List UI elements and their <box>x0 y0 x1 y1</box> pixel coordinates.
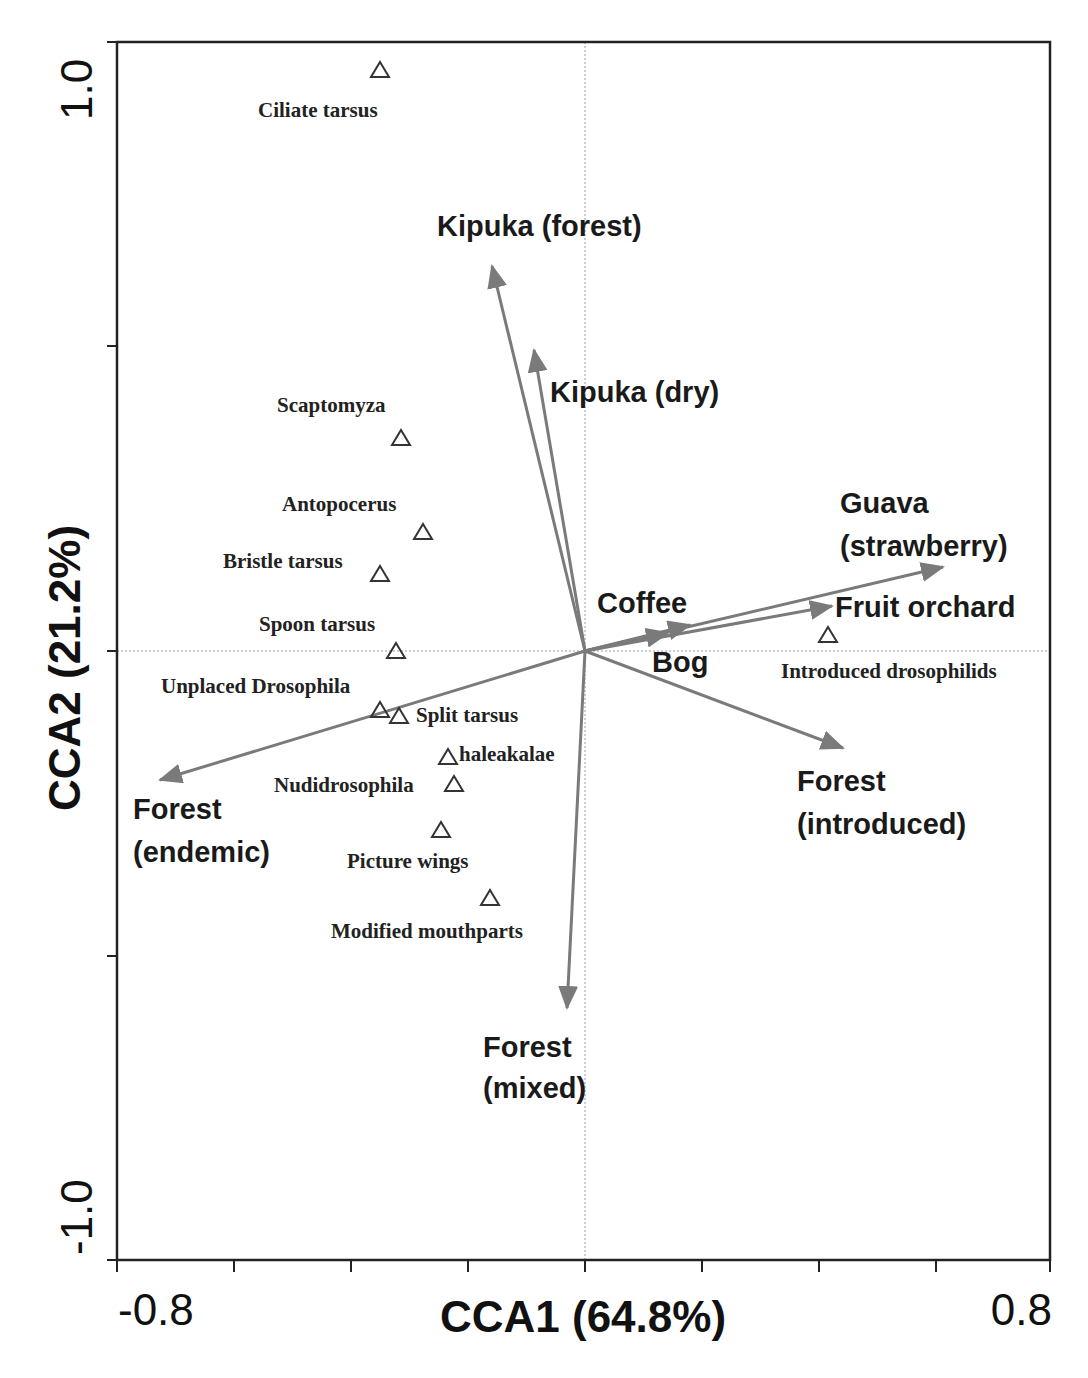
label-kipuka-dry: Kipuka (dry) <box>550 376 719 408</box>
species-label-haleakalae: haleakalae <box>459 742 555 766</box>
species-label-picture-wings: Picture wings <box>347 849 469 873</box>
species-label-split-tarsus: Split tarsus <box>416 703 518 727</box>
label-forest-endemic-line2: (endemic) <box>133 836 270 868</box>
triangle-marker-ciliate-tarsus <box>371 62 389 77</box>
label-guava-line2: (strawberry) <box>840 530 1008 562</box>
species-label-introduced-drosophilids: Introduced drosophilids <box>781 659 997 683</box>
species-label-scaptomyza: Scaptomyza <box>277 393 386 417</box>
y-tick-label-min: -1.0 <box>52 1179 101 1255</box>
species-label-modified-mouthparts: Modified mouthparts <box>331 919 523 943</box>
vector-kipuka-forest <box>492 266 585 651</box>
triangle-marker-bristle-tarsus <box>371 566 389 581</box>
label-fruit-orchard: Fruit orchard <box>835 591 1015 623</box>
species-label-antopocerus: Antopocerus <box>282 492 396 516</box>
label-forest-endemic-line1: Forest <box>133 793 222 825</box>
species-label-spoon-tarsus: Spoon tarsus <box>259 612 375 636</box>
label-coffee: Coffee <box>597 587 687 619</box>
label-forest-mixed-line2: (mixed) <box>483 1072 586 1104</box>
label-forest-introduced-line2: (introduced) <box>797 808 966 840</box>
species-label-ciliate-tarsus: Ciliate tarsus <box>258 98 378 122</box>
x-axis-title: CCA1 (64.8%) <box>440 1292 726 1341</box>
triangle-marker-introduced-drosophilids <box>819 627 837 642</box>
species-label-nudidrosophila: Nudidrosophila <box>274 773 414 797</box>
triangle-marker-scaptomyza <box>392 430 410 445</box>
triangle-marker-nudidrosophila <box>445 776 463 791</box>
label-bog: Bog <box>652 646 708 678</box>
triangle-marker-picture-wings <box>432 822 450 837</box>
label-forest-mixed-line1: Forest <box>483 1031 572 1063</box>
x-tick-label-max: 0.8 <box>991 1285 1052 1334</box>
x-axis-ticks <box>117 1260 1050 1272</box>
vector-forest-mixed <box>567 651 585 1008</box>
y-axis-title: CCA2 (21.2%) <box>40 525 89 811</box>
triangle-marker-haleakalae <box>439 749 457 764</box>
species-label-bristle-tarsus: Bristle tarsus <box>223 549 343 573</box>
species-points <box>371 62 837 905</box>
y-tick-label-max: 1.0 <box>52 59 101 120</box>
label-guava-line1: Guava <box>840 487 930 519</box>
triangle-marker-antopocerus <box>414 524 432 539</box>
x-tick-label-min: -0.8 <box>118 1285 194 1334</box>
y-axis-ticks <box>107 42 117 1260</box>
label-forest-introduced-line1: Forest <box>797 765 886 797</box>
triangle-marker-modified-mouthparts <box>481 890 499 905</box>
label-kipuka-forest: Kipuka (forest) <box>437 210 642 242</box>
species-label-unplaced-drosophila: Unplaced Drosophila <box>161 674 351 698</box>
cca-biplot: -0.8 0.8 1.0 -1.0 CCA1 (64.8%) CCA2 (21.… <box>0 0 1088 1378</box>
